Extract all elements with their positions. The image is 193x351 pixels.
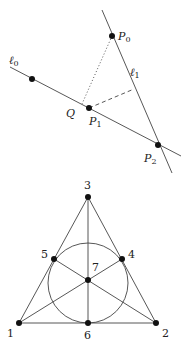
line-l0 xyxy=(10,67,181,156)
label-q: Q xyxy=(66,107,75,120)
fano-label-2: 2 xyxy=(162,327,169,340)
fano-point-7 xyxy=(85,277,91,283)
dashed-segment-p1-l1 xyxy=(89,89,134,108)
fano-points xyxy=(16,194,159,326)
fano-label-3: 3 xyxy=(84,179,91,192)
label-p0: P0 xyxy=(117,30,131,44)
fano-line-2-5 xyxy=(54,259,156,323)
label-l0: ℓ0 xyxy=(9,54,19,68)
fano-point-4 xyxy=(119,256,125,262)
fano-label-4: 4 xyxy=(128,248,135,261)
top-labels: ℓ0 ℓ1 P0 Q P1 P2 xyxy=(9,30,157,166)
fano-label-6: 6 xyxy=(84,329,91,342)
fano-point-1 xyxy=(16,320,22,326)
label-p2: P2 xyxy=(143,152,157,166)
point-p1 xyxy=(86,105,92,111)
top-points xyxy=(29,33,161,148)
label-p1: P1 xyxy=(88,115,102,129)
diagram-canvas: ℓ0 ℓ1 P0 Q P1 P2 1 2 3 4 5 6 7 xyxy=(0,0,193,351)
point-p2 xyxy=(155,142,161,148)
fano-point-2 xyxy=(153,320,159,326)
point-on-l0 xyxy=(29,76,35,82)
label-l1: ℓ1 xyxy=(130,66,140,80)
dotted-segment-p0-q xyxy=(82,36,112,104)
fano-point-3 xyxy=(85,194,91,200)
fano-line-1-4 xyxy=(19,259,122,323)
fano-point-6 xyxy=(85,320,91,326)
fano-point-5 xyxy=(51,256,57,262)
fano-label-1: 1 xyxy=(7,327,14,340)
point-p0 xyxy=(109,33,115,39)
fano-label-7: 7 xyxy=(92,261,99,274)
fano-plane xyxy=(19,197,156,323)
fano-label-5: 5 xyxy=(41,248,48,261)
top-diagram xyxy=(10,10,181,173)
